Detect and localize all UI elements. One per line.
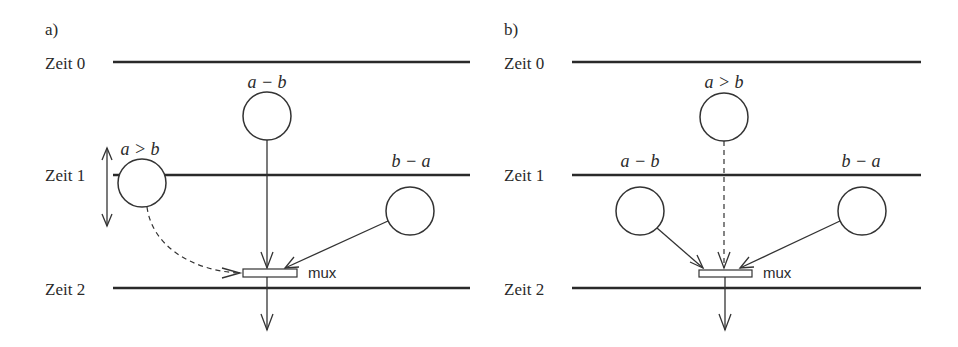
time-label-2: Zeit 2 bbox=[45, 280, 85, 299]
edge-left-to-mux bbox=[657, 228, 703, 268]
node-label-top: a − b bbox=[247, 72, 286, 92]
node-label-top: a > b bbox=[704, 72, 743, 92]
edge-right-to-mux bbox=[285, 221, 388, 268]
node-label-right: b − a bbox=[841, 151, 880, 171]
node-left bbox=[616, 187, 664, 235]
dashed-edge-left-to-mux bbox=[147, 207, 238, 273]
panel-b: b) Zeit 0 Zeit 1 Zeit 2 a > b a − b b − … bbox=[504, 20, 921, 330]
node-top bbox=[243, 92, 291, 140]
time-label-0: Zeit 0 bbox=[45, 54, 85, 73]
time-label-0: Zeit 0 bbox=[504, 54, 544, 73]
time-label-1: Zeit 1 bbox=[504, 166, 544, 185]
time-label-2: Zeit 2 bbox=[504, 280, 544, 299]
panel-a-label: a) bbox=[45, 20, 58, 39]
mux-label: mux bbox=[308, 264, 337, 281]
node-right bbox=[386, 187, 434, 235]
mux-box bbox=[243, 269, 297, 277]
double-arrow-icon bbox=[102, 148, 112, 226]
node-left bbox=[118, 159, 166, 207]
mux-box bbox=[699, 270, 752, 277]
panel-a: a) Zeit 0 Zeit 1 Zeit 2 a − b a > b b − … bbox=[45, 20, 470, 330]
node-right bbox=[838, 187, 886, 235]
node-label-left: a − b bbox=[620, 151, 659, 171]
mux-label: mux bbox=[763, 264, 792, 281]
node-top bbox=[700, 93, 748, 141]
scheduling-diagram: a) Zeit 0 Zeit 1 Zeit 2 a − b a > b b − … bbox=[0, 0, 958, 347]
panel-b-label: b) bbox=[504, 20, 518, 39]
node-label-right: b − a bbox=[391, 151, 430, 171]
edge-right-to-mux bbox=[740, 221, 840, 268]
time-label-1: Zeit 1 bbox=[45, 166, 85, 185]
node-label-left: a > b bbox=[120, 139, 159, 159]
